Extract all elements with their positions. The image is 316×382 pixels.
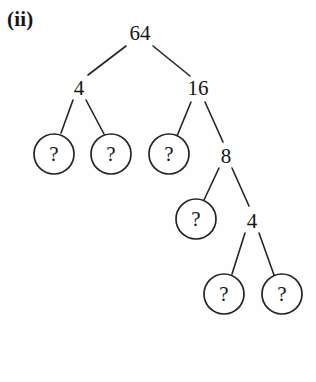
value-node-label: 16: [188, 76, 209, 100]
tree-node-unknown[interactable]: ?: [91, 134, 131, 174]
tree-node-unknown[interactable]: ?: [176, 199, 216, 239]
unknown-node-label: ?: [106, 142, 115, 166]
value-node-label: 8: [221, 144, 232, 168]
tree-node-value: 4: [247, 209, 258, 233]
value-node-label: 64: [130, 21, 152, 45]
tree-edge: [153, 46, 190, 76]
tree-node-unknown[interactable]: ?: [262, 274, 302, 314]
unknown-node-label: ?: [49, 142, 58, 166]
factor-tree-diagram: 64416???8?4??: [0, 0, 316, 382]
tree-edge: [86, 100, 104, 134]
unknown-node-label: ?: [277, 282, 286, 306]
factor-tree-figure: (ii) 64416???8?4??: [0, 0, 316, 382]
tree-edge: [61, 100, 73, 133]
tree-edge: [177, 102, 191, 136]
tree-edge: [232, 233, 245, 274]
tree-node-unknown[interactable]: ?: [204, 274, 244, 314]
unknown-node-label: ?: [191, 207, 200, 231]
value-node-label: 4: [247, 209, 258, 233]
tree-nodes-group: 64416???8?4??: [34, 21, 302, 314]
tree-edge: [204, 168, 219, 200]
value-node-label: 4: [74, 76, 85, 100]
tree-node-unknown[interactable]: ?: [34, 134, 74, 174]
tree-edge: [205, 102, 223, 142]
tree-node-value: 4: [74, 76, 85, 100]
unknown-node-label: ?: [219, 282, 228, 306]
tree-node-value: 16: [188, 76, 209, 100]
unknown-node-label: ?: [164, 142, 173, 166]
tree-node-unknown[interactable]: ?: [149, 134, 189, 174]
tree-node-value: 64: [130, 21, 152, 45]
tree-edge: [259, 233, 274, 275]
tree-edge: [232, 168, 249, 206]
tree-edge: [88, 46, 126, 75]
tree-node-value: 8: [221, 144, 232, 168]
